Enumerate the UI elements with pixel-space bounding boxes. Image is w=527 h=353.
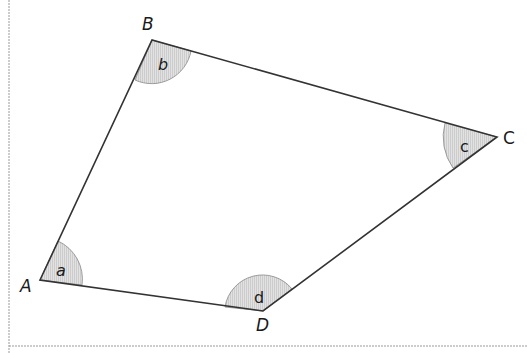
vertex-label-a: A	[19, 276, 32, 296]
angle-label-b: b	[158, 55, 168, 74]
angle-label-c: c	[460, 137, 469, 156]
vertex-label-c: C	[503, 128, 515, 148]
quadrilateral-diagram: A B C D a b c d	[0, 0, 527, 353]
angle-label-a: a	[56, 261, 66, 280]
vertex-label-d: D	[256, 315, 269, 335]
quadrilateral-outline	[40, 40, 497, 311]
vertex-label-b: B	[142, 14, 154, 34]
angle-label-d: d	[254, 288, 264, 307]
